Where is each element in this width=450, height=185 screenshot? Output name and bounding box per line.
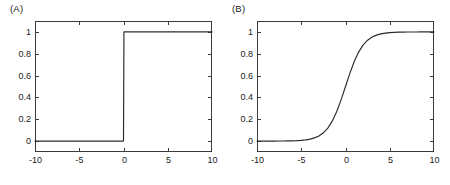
x-tick-label: -5 — [297, 155, 305, 165]
y-tick-label: 1 — [26, 27, 31, 37]
x-tick-label: -10 — [29, 155, 42, 165]
panel-b-plot: -10-5051000.20.40.60.81 — [225, 0, 450, 185]
y-tick-label: 0.8 — [18, 49, 31, 59]
x-tick-label: 10 — [207, 155, 217, 165]
y-tick-label: 0 — [248, 136, 253, 146]
y-tick-label: 0.2 — [240, 114, 253, 124]
x-tick-label: 0 — [344, 155, 349, 165]
y-tick-label: 0.6 — [240, 71, 253, 81]
y-tick-label: 1 — [248, 27, 253, 37]
panel-a-heaviside-step: (A) -10-5051000.20.40.60.81 — [0, 0, 225, 185]
figure-container: (A) -10-5051000.20.40.60.81 (B) -10-5051… — [0, 0, 450, 185]
panel-b-logistic-sigmoid: (B) -10-5051000.20.40.60.81 — [225, 0, 450, 185]
x-tick-label: 10 — [429, 155, 439, 165]
x-tick-label: 0 — [122, 155, 127, 165]
x-tick-label: -10 — [251, 155, 264, 165]
data-series-line — [35, 32, 212, 141]
y-tick-label: 0.2 — [18, 114, 31, 124]
data-series-line — [257, 32, 434, 141]
x-tick-label: 5 — [388, 155, 393, 165]
y-tick-label: 0.8 — [240, 49, 253, 59]
y-tick-label: 0 — [26, 136, 31, 146]
y-tick-label: 0.6 — [18, 71, 31, 81]
x-tick-label: -5 — [75, 155, 83, 165]
y-tick-label: 0.4 — [18, 92, 31, 102]
panel-a-plot: -10-5051000.20.40.60.81 — [0, 0, 225, 185]
x-tick-label: 5 — [166, 155, 171, 165]
y-tick-label: 0.4 — [240, 92, 253, 102]
